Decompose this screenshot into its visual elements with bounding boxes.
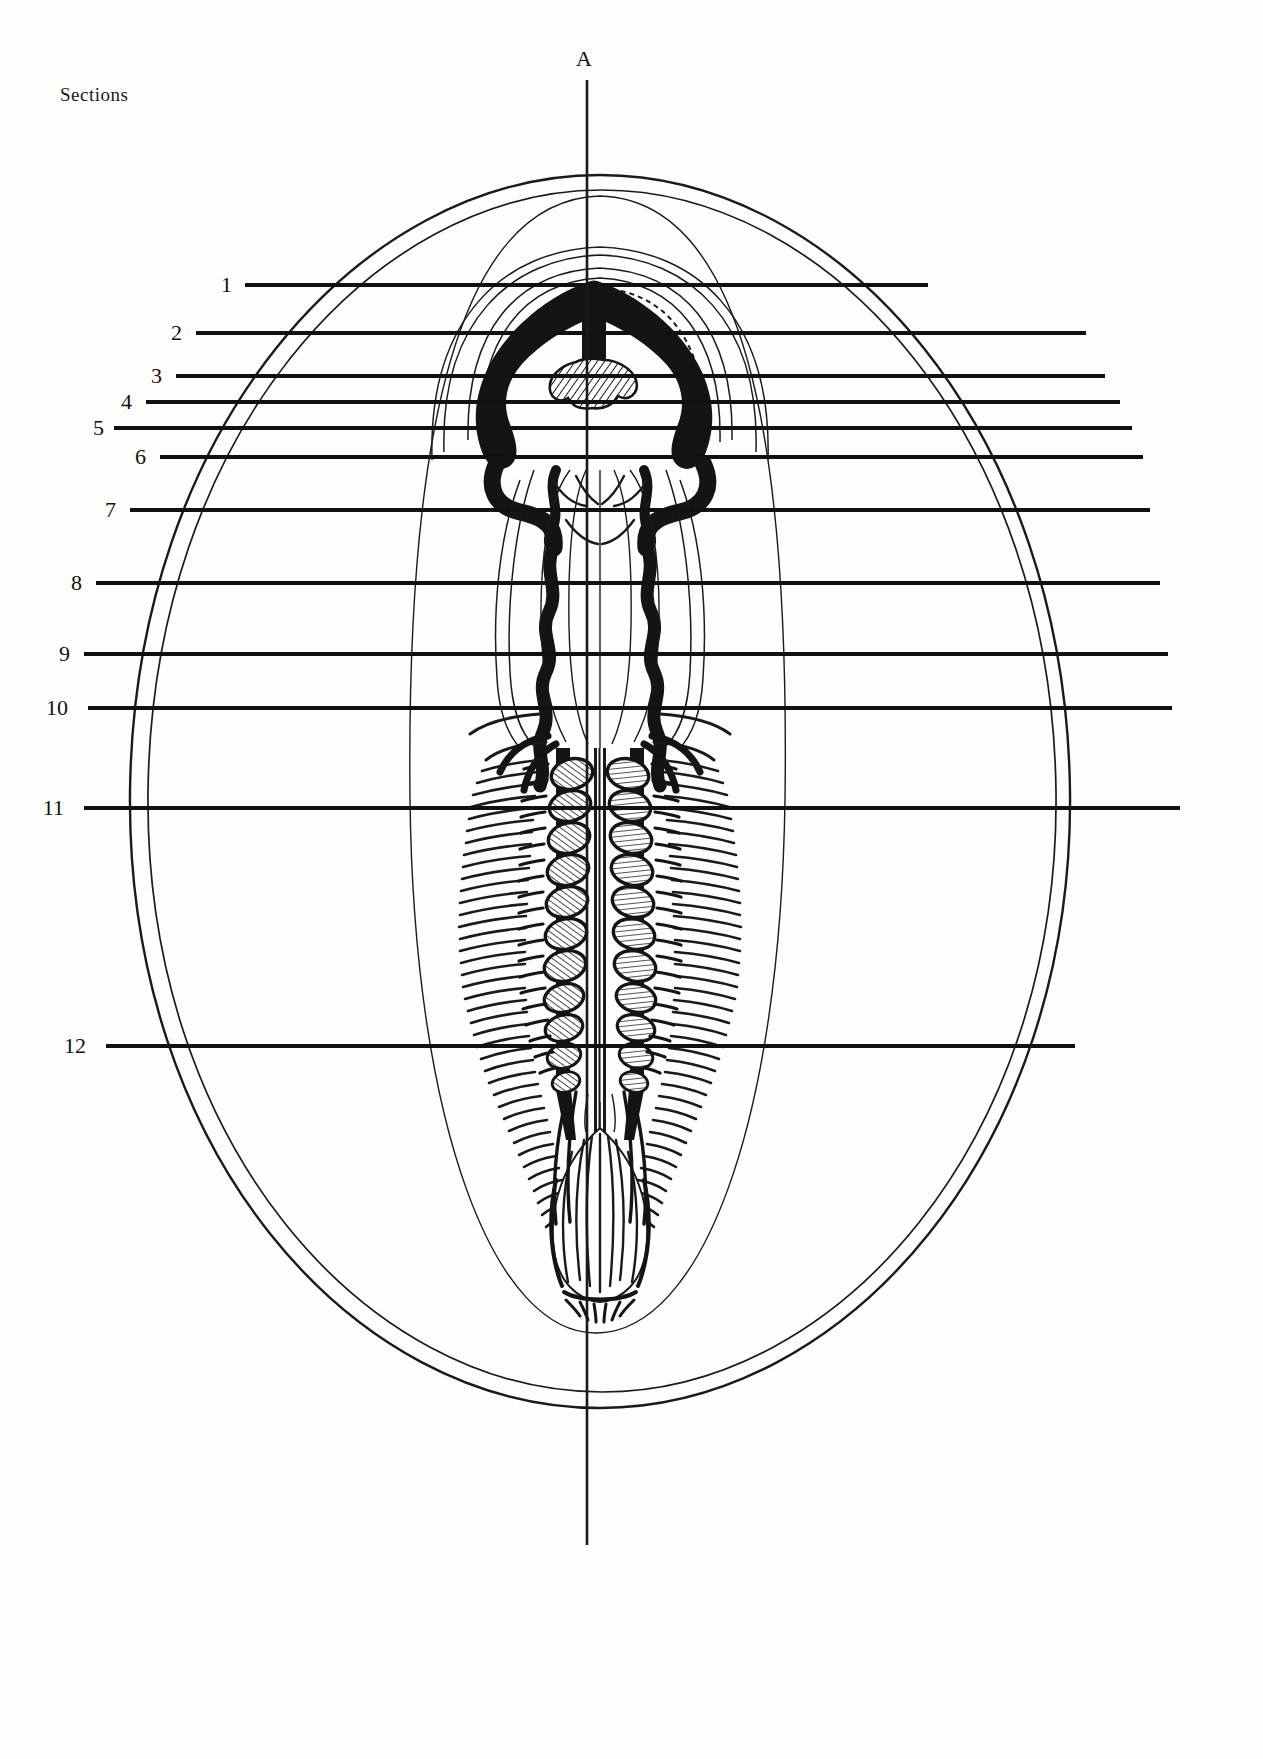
section-label-10: 10: [28, 695, 68, 721]
figure-page: Sections A 123456789101112: [0, 0, 1263, 1759]
segmental-gonads-right: [604, 754, 659, 1095]
section-label-12: 12: [46, 1033, 86, 1059]
section-label-7: 7: [76, 497, 116, 523]
section-label-1: 1: [192, 272, 232, 298]
section-label-5: 5: [64, 415, 104, 441]
section-label-8: 8: [42, 570, 82, 596]
section-label-3: 3: [122, 363, 162, 389]
section-label-2: 2: [142, 320, 182, 346]
section-label-9: 9: [30, 641, 70, 667]
section-label-6: 6: [106, 444, 146, 470]
axis-label-a: A: [576, 46, 592, 72]
tail-tip: [551, 1128, 649, 1322]
section-label-4: 4: [92, 389, 132, 415]
section-label-11: 11: [24, 795, 64, 821]
organism-illustration: [0, 0, 1263, 1759]
page-title: Sections: [60, 84, 128, 106]
